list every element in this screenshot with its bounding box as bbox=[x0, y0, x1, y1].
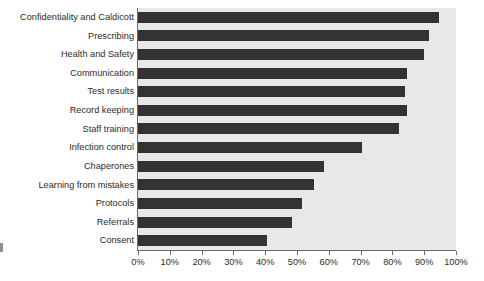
x-axis-tick bbox=[392, 251, 393, 255]
bar-category-label: Protocols bbox=[0, 194, 134, 213]
bar-row: Consent bbox=[0, 231, 484, 250]
x-axis-tick bbox=[424, 251, 425, 255]
bar bbox=[138, 12, 439, 23]
bar-category-label: Consent bbox=[0, 231, 134, 250]
bar-row: Prescribing bbox=[0, 27, 484, 46]
bar-row: Communication bbox=[0, 64, 484, 83]
bar-row: Staff training bbox=[0, 120, 484, 139]
bar-category-label: Health and Safety bbox=[0, 45, 134, 64]
x-axis-tick bbox=[170, 251, 171, 255]
bar bbox=[138, 142, 362, 153]
bar-rows: Confidentiality and CaldicottPrescribing… bbox=[0, 8, 484, 250]
bar bbox=[138, 30, 429, 41]
x-axis-tick-label: 100% bbox=[434, 257, 478, 267]
x-axis-tick bbox=[202, 251, 203, 255]
bar-chart: Confidentiality and CaldicottPrescribing… bbox=[0, 0, 484, 281]
bar bbox=[138, 68, 407, 79]
bar-row: Confidentiality and Caldicott bbox=[0, 8, 484, 27]
bar-category-label: Test results bbox=[0, 82, 134, 101]
bar-row: Learning from mistakes bbox=[0, 176, 484, 195]
bar-category-label: Infection control bbox=[0, 138, 134, 157]
bar bbox=[138, 105, 407, 116]
bar-row: Record keeping bbox=[0, 101, 484, 120]
bar-row: Health and Safety bbox=[0, 45, 484, 64]
bar bbox=[138, 198, 302, 209]
bar-category-label: Staff training bbox=[0, 120, 134, 139]
x-axis-tick bbox=[456, 251, 457, 255]
bar-row: Chaperones bbox=[0, 157, 484, 176]
bar-row: Referrals bbox=[0, 213, 484, 232]
bar bbox=[138, 123, 399, 134]
bar-category-label: Chaperones bbox=[0, 157, 134, 176]
bar bbox=[138, 179, 314, 190]
bar bbox=[138, 86, 405, 97]
x-axis-tick bbox=[329, 251, 330, 255]
bar-row: Test results bbox=[0, 82, 484, 101]
x-axis-tick bbox=[265, 251, 266, 255]
bar-category-label: Prescribing bbox=[0, 27, 134, 46]
bar-category-label: Record keeping bbox=[0, 101, 134, 120]
bar bbox=[138, 235, 267, 246]
bar-row: Infection control bbox=[0, 138, 484, 157]
bar-category-label: Learning from mistakes bbox=[0, 176, 134, 195]
x-axis-tick bbox=[138, 251, 139, 255]
x-axis-tick bbox=[233, 251, 234, 255]
bar-category-label: Communication bbox=[0, 64, 134, 83]
bar bbox=[138, 49, 424, 60]
x-axis-tick bbox=[297, 251, 298, 255]
bar-category-label: Referrals bbox=[0, 213, 134, 232]
bar-category-label: Confidentiality and Caldicott bbox=[0, 8, 134, 27]
bar bbox=[138, 217, 292, 228]
x-axis-tick bbox=[361, 251, 362, 255]
bar-row: Protocols bbox=[0, 194, 484, 213]
bar bbox=[138, 161, 324, 172]
